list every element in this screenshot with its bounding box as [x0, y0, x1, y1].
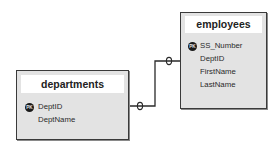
table-departments[interactable]: departments PK DeptID DeptName: [16, 70, 129, 140]
field-deptid[interactable]: DeptID: [200, 54, 224, 63]
field-lastname[interactable]: LastName: [200, 80, 236, 89]
table-title-departments: departments: [21, 75, 124, 93]
field-deptid[interactable]: DeptID: [38, 102, 62, 111]
primary-key-icon: PK: [25, 103, 34, 112]
field-deptname[interactable]: DeptName: [38, 115, 75, 124]
field-ss-number[interactable]: SS_Number: [200, 41, 242, 50]
table-title-employees: employees: [185, 16, 262, 33]
field-firstname[interactable]: FirstName: [200, 67, 236, 76]
table-employees[interactable]: employees PK SS_Number DeptID FirstName …: [180, 12, 267, 109]
primary-key-icon: PK: [188, 42, 197, 51]
